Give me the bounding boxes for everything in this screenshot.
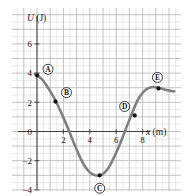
point-dot — [156, 86, 160, 90]
x-tick-label: 6 — [114, 135, 119, 145]
potential-energy-graph-figure: −4−202462468 ABCDE U (J) x (m) — [0, 0, 185, 196]
point-dot — [53, 99, 57, 103]
y-tick-label: 6 — [28, 39, 33, 49]
point-label-letter: E — [155, 73, 160, 82]
y-axis-title: U (J) — [27, 13, 46, 24]
point-dot — [133, 113, 137, 117]
point-label-letter: B — [64, 88, 69, 97]
plot-canvas: −4−202462468 ABCDE U (J) x (m) — [0, 0, 185, 196]
y-tick-label: −4 — [22, 185, 32, 195]
x-tick-label: 4 — [88, 135, 93, 145]
point-dot — [98, 173, 102, 177]
x-axis-title: x (m) — [145, 127, 166, 138]
point-label-letter: D — [122, 102, 128, 111]
y-tick-label: −2 — [22, 156, 32, 166]
x-tick-label: 2 — [61, 135, 66, 145]
point-label-letter: A — [45, 65, 51, 74]
y-tick-label: 4 — [28, 68, 33, 78]
x-tick-label: 8 — [140, 135, 145, 145]
marked-data-points: ABCDE — [35, 64, 163, 193]
y-tick-label: 0 — [28, 127, 33, 137]
point-label-letter: C — [97, 184, 102, 193]
y-tick-label: 2 — [28, 98, 33, 108]
marked-point-b: B — [53, 88, 71, 104]
point-dot — [35, 73, 39, 77]
